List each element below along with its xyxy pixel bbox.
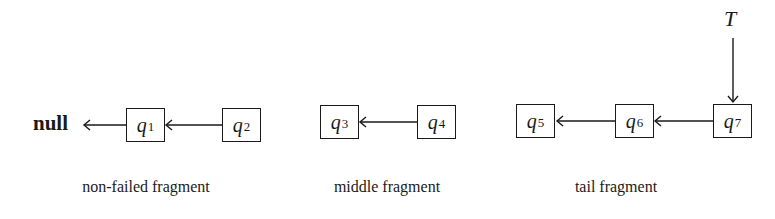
node-var: q xyxy=(428,111,438,134)
node-var: q xyxy=(331,111,341,134)
node-sub: 2 xyxy=(244,119,251,135)
node-sub: 1 xyxy=(148,119,155,135)
node-q4: q4 xyxy=(417,105,456,139)
node-var: q xyxy=(233,114,243,137)
node-q7: q7 xyxy=(713,104,752,138)
tail-pointer-label: T xyxy=(724,6,736,32)
node-var: q xyxy=(137,114,147,137)
null-label: null xyxy=(33,111,68,136)
node-q1: q1 xyxy=(126,108,165,142)
node-q3: q3 xyxy=(320,105,359,139)
node-var: q xyxy=(626,110,636,133)
node-sub: 6 xyxy=(637,115,644,131)
caption-middle-fragment: middle fragment xyxy=(334,178,440,196)
node-var: q xyxy=(527,110,537,133)
node-q2: q2 xyxy=(222,108,261,142)
node-sub: 5 xyxy=(538,115,545,131)
caption-non-failed-fragment: non-failed fragment xyxy=(82,178,210,196)
node-q6: q6 xyxy=(615,104,654,138)
node-q5: q5 xyxy=(516,104,555,138)
node-var: q xyxy=(724,110,734,133)
node-sub: 7 xyxy=(735,115,742,131)
node-sub: 3 xyxy=(342,116,349,132)
node-sub: 4 xyxy=(439,116,446,132)
caption-tail-fragment: tail fragment xyxy=(575,178,657,196)
